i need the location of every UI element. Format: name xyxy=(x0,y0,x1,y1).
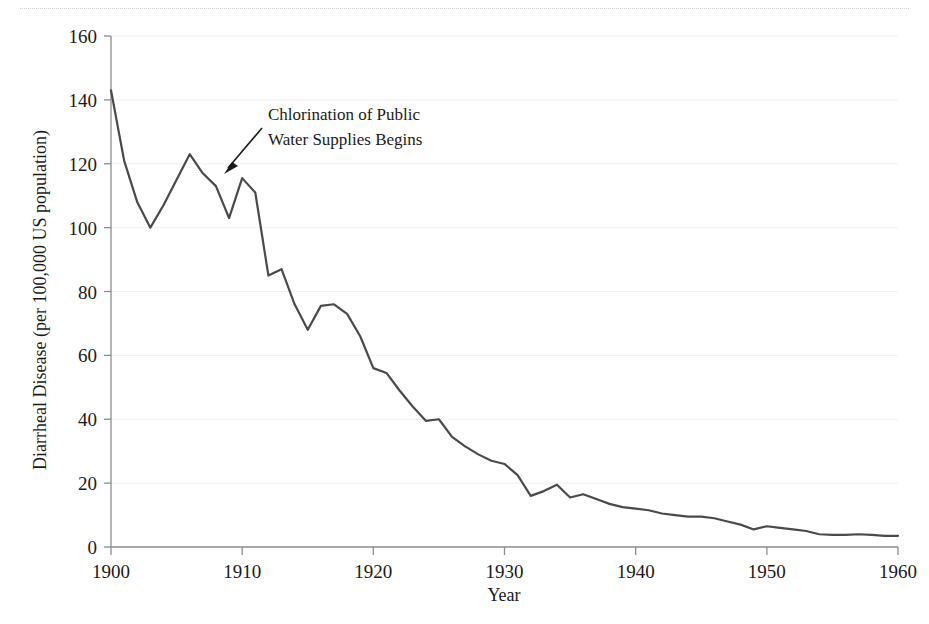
x-axis-title: Year xyxy=(487,585,520,605)
gridlines-group xyxy=(111,36,898,483)
y-tick-label: 60 xyxy=(78,345,97,366)
x-tick-label: 1910 xyxy=(223,561,261,582)
x-tick-label: 1960 xyxy=(879,561,917,582)
y-tick-label: 120 xyxy=(69,154,98,175)
y-tick-label: 20 xyxy=(78,473,97,494)
y-tick-label: 100 xyxy=(69,218,98,239)
y-tick-label: 140 xyxy=(69,90,98,111)
annotation-line-1: Chlorination of Public xyxy=(268,105,421,124)
x-tick-label: 1950 xyxy=(748,561,786,582)
chart-figure: 020406080100120140160 190019101920193019… xyxy=(0,0,929,624)
annotation-line-2: Water Supplies Begins xyxy=(268,130,422,149)
y-tick-label: 80 xyxy=(78,282,97,303)
x-tick-label: 1930 xyxy=(486,561,524,582)
y-axis-title: Diarrheal Disease (per 100,000 US popula… xyxy=(30,130,51,470)
y-tick-label: 40 xyxy=(78,409,97,430)
data-line-diarrheal-disease xyxy=(111,90,898,536)
x-tick-labels-group: 1900191019201930194019501960 xyxy=(92,547,917,582)
x-tick-label: 1940 xyxy=(617,561,655,582)
annotation-arrow-icon xyxy=(224,128,262,174)
x-tick-label: 1900 xyxy=(92,561,130,582)
y-tick-label: 0 xyxy=(88,537,98,558)
x-tick-label: 1920 xyxy=(354,561,392,582)
line-chart-svg: 020406080100120140160 190019101920193019… xyxy=(0,0,929,624)
y-tick-labels-group: 020406080100120140160 xyxy=(69,26,112,558)
y-tick-label: 160 xyxy=(69,26,98,47)
